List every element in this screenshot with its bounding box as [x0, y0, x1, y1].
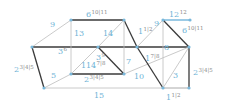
edge-label: 36 [58, 46, 68, 56]
node-n11 [187, 45, 190, 48]
node-n9 [161, 18, 164, 21]
node-n3 [122, 18, 125, 21]
edge-label: 11|2 [166, 92, 180, 102]
edge-label: 10 [134, 72, 144, 81]
node-n6 [96, 45, 99, 48]
edge-n7-n11 [124, 47, 189, 74]
edge-label: 15 [94, 91, 104, 100]
edge-label: 11|2 [138, 26, 152, 36]
edge-label: 3 [173, 71, 178, 80]
graph-diagram: 9610|1113143623|4|55391147|823|4|5157101… [0, 0, 228, 105]
edge-label: 1212 [169, 9, 187, 19]
edge-label: 47|8 [91, 60, 106, 70]
node-n4 [42, 86, 45, 89]
edge-n11-n12 [163, 47, 189, 88]
edge-label: 23|4|5 [84, 74, 104, 84]
node-n8 [135, 45, 138, 48]
edge-label: 9 [154, 19, 159, 28]
edge-label: 8 [164, 43, 169, 52]
edge-label: 13 [74, 29, 84, 38]
node-n12 [161, 86, 164, 89]
edge-label: 14 [103, 29, 113, 38]
edge-label: 17|8 [145, 53, 160, 63]
edge-n4-n5 [44, 74, 71, 88]
edge-label: 610|11 [182, 25, 203, 35]
node-n1 [30, 45, 33, 48]
edge-label: 9 [50, 20, 55, 29]
edge-label: 23|4|5 [193, 67, 213, 77]
node-n2 [69, 18, 72, 21]
edge-label: 5 [51, 71, 56, 80]
node-n13 [187, 86, 190, 89]
node-n7 [122, 72, 125, 75]
edge-label: 7 [126, 57, 131, 66]
edge-label: 11 [81, 61, 91, 70]
node-n5 [69, 72, 72, 75]
edge-label: 23|4|5 [14, 64, 34, 74]
node-n10 [188, 18, 191, 21]
edge-label: 610|11 [86, 9, 107, 19]
edge-n3-n8 [124, 20, 137, 47]
